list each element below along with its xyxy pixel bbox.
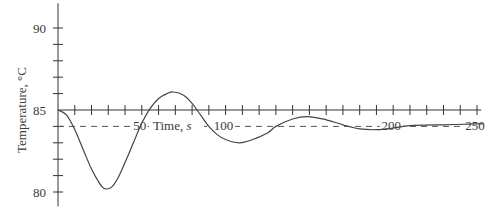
x-tick-label: 50: [133, 118, 146, 133]
x-tick-label: 250: [465, 118, 485, 133]
x-axis-label-unit: s: [186, 118, 191, 133]
x-axis-label: Time, s: [153, 118, 192, 133]
x-axis-label-text: Time,: [153, 118, 186, 133]
x-tick-label: 100: [214, 118, 234, 133]
x-axis: [58, 105, 481, 115]
y-tick-labels: 808590: [33, 21, 46, 200]
y-tick-label: 90: [33, 21, 46, 36]
x-tick-label: 200: [381, 118, 401, 133]
y-tick-label: 80: [33, 185, 46, 200]
temperature-time-chart: 808590 Temperature, °C 50100200250Time, …: [0, 0, 504, 218]
temperature-curve: [58, 92, 484, 189]
y-axis-label: Temperature, °C: [14, 67, 29, 153]
y-tick-label: 85: [33, 103, 46, 118]
y-axis: 808590: [33, 3, 63, 206]
